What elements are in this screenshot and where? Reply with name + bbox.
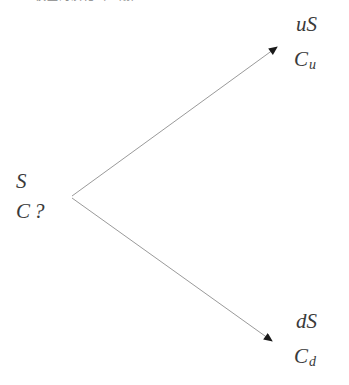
up-asset-text: uS	[296, 12, 317, 36]
up-option-base-text: C	[294, 47, 308, 71]
down-option-subscript: d	[309, 354, 316, 369]
up-option-subscript: u	[309, 57, 316, 72]
up-branch-line	[72, 47, 277, 196]
down-asset-text: dS	[296, 309, 317, 333]
down-node-option-label: Cd	[294, 346, 315, 367]
down-option-base-text: C	[294, 344, 308, 368]
root-asset-text: S	[16, 169, 27, 193]
binomial-tree-figure: 模型的演化（一期） S C? uS Cu dS Cd	[0, 0, 349, 385]
root-option-question-mark: ?	[34, 199, 45, 223]
root-option-label: C?	[16, 201, 45, 222]
down-node-asset-label: dS	[296, 311, 317, 332]
root-asset-label: S	[16, 171, 27, 192]
root-option-text: C	[16, 199, 30, 223]
up-node-option-label: Cu	[294, 49, 315, 70]
down-branch-line	[72, 198, 272, 341]
up-node-asset-label: uS	[296, 14, 317, 35]
